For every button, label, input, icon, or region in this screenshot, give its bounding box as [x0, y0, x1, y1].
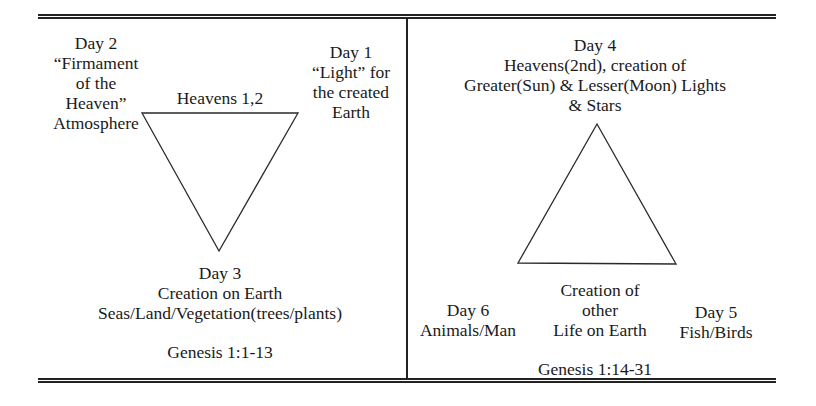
day6-line: Day 6 — [410, 300, 526, 320]
day2-label: Day 2 “Firmament of the Heaven” Atmosphe… — [36, 33, 156, 133]
left-scripture-reference: Genesis 1:1-13 — [40, 342, 400, 362]
day2-line: of the — [36, 73, 156, 93]
day2-line: Heaven” — [36, 93, 156, 113]
inverted-triangle — [142, 113, 298, 251]
day4-label: Day 4 Heavens(2nd), creation of Greater(… — [410, 35, 780, 115]
day5-label: Day 5 Fish/Birds — [666, 302, 766, 342]
creation-of-other-life-label: Creation of other Life on Earth — [530, 280, 670, 340]
day3-line: Seas/Land/Vegetation(trees/plants) — [40, 303, 400, 323]
day4-line: Day 4 — [410, 35, 780, 55]
day2-line: Atmosphere — [36, 113, 156, 133]
day4-line: Heavens(2nd), creation of — [410, 55, 780, 75]
day1-line: “Light” for — [296, 62, 406, 82]
center-line: other — [530, 300, 670, 320]
day6-line: Animals/Man — [410, 320, 526, 340]
day4-line: & Stars — [410, 95, 780, 115]
center-line: Life on Earth — [530, 320, 670, 340]
day5-line: Day 5 — [666, 302, 766, 322]
day5-line: Fish/Birds — [666, 322, 766, 342]
upright-triangle — [518, 124, 676, 264]
day2-line: Day 2 — [36, 33, 156, 53]
day1-label: Day 1 “Light” for the created Earth — [296, 42, 406, 122]
day3-label: Day 3 Creation on Earth Seas/Land/Vegeta… — [40, 263, 400, 323]
day6-label: Day 6 Animals/Man — [410, 300, 526, 340]
heavens-1-2-label: Heavens 1,2 — [160, 88, 280, 108]
day1-line: the created — [296, 82, 406, 102]
day1-line: Earth — [296, 102, 406, 122]
center-line: Creation of — [530, 280, 670, 300]
day3-line: Creation on Earth — [40, 283, 400, 303]
day1-line: Day 1 — [296, 42, 406, 62]
day2-line: “Firmament — [36, 53, 156, 73]
right-scripture-reference: Genesis 1:14-31 — [500, 359, 690, 379]
day4-line: Greater(Sun) & Lesser(Moon) Lights — [410, 75, 780, 95]
day3-line: Day 3 — [40, 263, 400, 283]
